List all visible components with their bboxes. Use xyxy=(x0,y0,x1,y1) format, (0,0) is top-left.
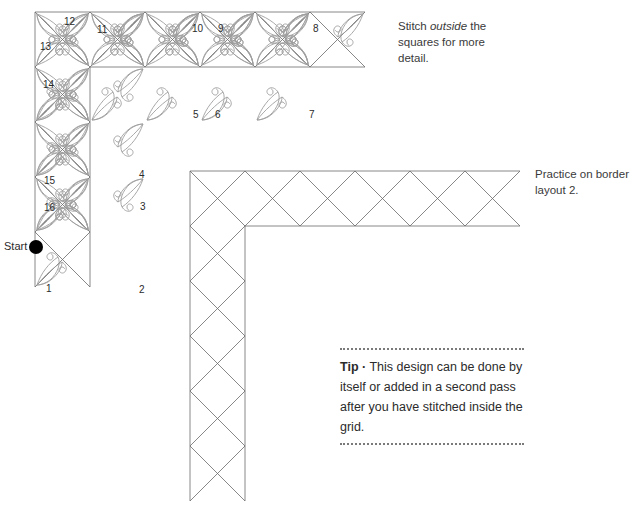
stitch-number-6: 6 xyxy=(215,110,221,120)
stitch-number-9: 9 xyxy=(218,24,224,34)
note-stitch-emphasis: outside xyxy=(430,20,467,32)
stitch-number-5: 5 xyxy=(193,110,199,120)
note-stitch-before: Stitch xyxy=(398,20,430,32)
start-label: Start xyxy=(4,240,27,252)
note-practice-border-layout-2: Practice on border layout 2. xyxy=(535,166,632,198)
diagram-border-layout-1 xyxy=(0,0,632,521)
stitch-number-13: 13 xyxy=(40,42,51,52)
note-stitch-outside: Stitch outside the squares for more deta… xyxy=(398,18,518,66)
tip-word: Tip xyxy=(340,360,359,374)
stitch-number-8: 8 xyxy=(313,24,319,34)
start-dot xyxy=(29,240,43,254)
stitch-number-16: 16 xyxy=(44,203,55,213)
page-root: Stitch outside the squares for more deta… xyxy=(0,0,632,521)
stitch-number-2: 2 xyxy=(139,285,145,295)
tip-callout: Tip · This design can be done by itself … xyxy=(340,348,524,445)
tip-text: This design can be done by itself or add… xyxy=(340,360,523,434)
stitch-number-15: 15 xyxy=(44,176,55,186)
stitch-number-1: 1 xyxy=(46,284,52,294)
stitch-number-12: 12 xyxy=(64,17,75,27)
stitch-number-11: 11 xyxy=(97,25,107,35)
stitch-number-4: 4 xyxy=(139,170,145,180)
stitch-number-10: 10 xyxy=(192,24,203,34)
tip-bullet-glyph: · xyxy=(362,360,366,374)
stitch-number-7: 7 xyxy=(309,110,315,120)
stitch-number-3: 3 xyxy=(140,202,146,212)
stitch-number-14: 14 xyxy=(43,80,54,90)
diagram2-grid-lines xyxy=(190,171,520,501)
diagram1-scroll-motifs xyxy=(37,14,363,285)
